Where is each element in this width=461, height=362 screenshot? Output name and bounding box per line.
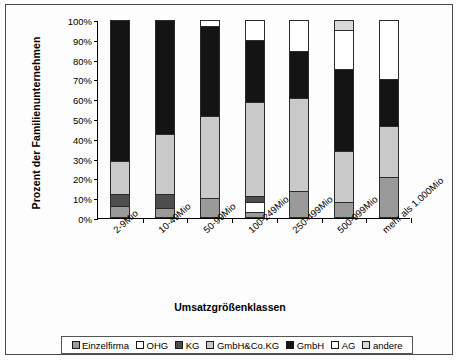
bar-segment xyxy=(201,117,219,199)
bar-segment xyxy=(290,52,308,99)
bar-segment xyxy=(246,41,264,104)
stacked-bar xyxy=(334,20,354,218)
bar-segment xyxy=(380,21,398,80)
stacked-bar xyxy=(200,20,220,218)
legend-label: GmbH xyxy=(297,340,324,351)
x-axis-tick-mark xyxy=(277,218,278,223)
bar-segment xyxy=(380,178,398,217)
y-axis-tick-mark xyxy=(94,80,98,81)
bar-segment xyxy=(246,21,264,41)
y-axis-tick-label: 30% xyxy=(52,154,98,165)
legend-item[interactable]: GmbH&Co.KG xyxy=(206,340,279,351)
legend-item[interactable]: AG xyxy=(331,340,355,351)
y-axis-tick-label: 60% xyxy=(52,95,98,106)
x-axis-tick-mark xyxy=(187,218,188,223)
chart-frame: Prozent der Familienunternehmen 0%10%20%… xyxy=(5,4,453,355)
legend-label: AG xyxy=(342,340,356,351)
legend-label: Einzelfirma xyxy=(82,340,129,351)
y-axis-tick-mark xyxy=(94,61,98,62)
y-axis-tick-label: 90% xyxy=(52,35,98,46)
x-axis-title: Umsatzgrößenklassen xyxy=(6,301,454,313)
legend-item[interactable]: KG xyxy=(175,340,199,351)
bar-segment xyxy=(335,21,353,31)
legend-swatch-icon xyxy=(72,341,80,349)
stacked-bar xyxy=(379,20,399,218)
y-axis-tick-label: 80% xyxy=(52,55,98,66)
chart-legend: EinzelfirmaOHGKGGmbH&Co.KGGmbHAGandere xyxy=(61,336,413,354)
y-axis-tick-mark xyxy=(94,41,98,42)
bar-segment xyxy=(246,203,264,213)
y-axis-tick-label: 50% xyxy=(52,115,98,126)
bar-segment xyxy=(290,21,308,52)
y-axis-tick-label: 40% xyxy=(52,134,98,145)
x-axis-tick-mark xyxy=(366,218,367,223)
legend-label: andere xyxy=(373,340,403,351)
bar-segment xyxy=(246,103,264,197)
y-axis-tick-label: 70% xyxy=(52,75,98,86)
legend-swatch-icon xyxy=(175,341,183,349)
x-axis-tick-mark xyxy=(411,218,412,223)
y-axis-tick-label: 100% xyxy=(52,16,98,27)
bar-segment xyxy=(380,127,398,178)
y-axis-tick-mark xyxy=(94,199,98,200)
legend-item[interactable]: GmbH xyxy=(286,340,324,351)
y-axis-tick-mark xyxy=(94,219,98,220)
legend-label: GmbH&Co.KG xyxy=(217,340,279,351)
stacked-bar xyxy=(245,20,265,218)
bar-segment xyxy=(156,195,174,209)
bar-segment xyxy=(335,31,353,70)
y-axis-tick-mark xyxy=(94,179,98,180)
bar-segment xyxy=(111,162,129,195)
legend-swatch-icon xyxy=(331,341,339,349)
bar-segment xyxy=(335,152,353,203)
bar-segment xyxy=(156,21,174,135)
y-axis-tick-mark xyxy=(94,140,98,141)
y-axis-tick-mark xyxy=(94,100,98,101)
legend-item[interactable]: Einzelfirma xyxy=(72,340,130,351)
x-axis-tick-mark xyxy=(322,218,323,223)
y-axis-tick-mark xyxy=(94,21,98,22)
x-axis-tick-mark xyxy=(143,218,144,223)
bar-segment xyxy=(335,70,353,152)
y-axis-tick-label: 0% xyxy=(52,214,98,225)
plot-area: 0%10%20%30%40%50%60%70%80%90%100% xyxy=(97,21,410,219)
legend-swatch-icon xyxy=(362,341,370,349)
legend-label: OHG xyxy=(147,340,169,351)
y-axis-tick-mark xyxy=(94,160,98,161)
bar-segment xyxy=(201,27,219,117)
y-axis-tick-label: 10% xyxy=(52,194,98,205)
legend-item[interactable]: andere xyxy=(362,340,402,351)
stacked-bar xyxy=(110,20,130,218)
bar-segment xyxy=(380,80,398,127)
x-axis-tick-mark xyxy=(232,218,233,223)
legend-item[interactable]: OHG xyxy=(136,340,168,351)
stacked-bar xyxy=(155,20,175,218)
bar-segment xyxy=(111,21,129,162)
legend-swatch-icon xyxy=(206,341,214,349)
bar-segment xyxy=(156,135,174,196)
legend-swatch-icon xyxy=(136,341,144,349)
y-axis-title: Prozent der Familienunternehmen xyxy=(30,23,42,223)
y-axis-tick-label: 20% xyxy=(52,174,98,185)
bar-segment xyxy=(290,99,308,191)
y-axis-tick-mark xyxy=(94,120,98,121)
bar-segment xyxy=(111,195,129,207)
legend-label: KG xyxy=(186,340,200,351)
legend-swatch-icon xyxy=(286,341,294,349)
stacked-bar xyxy=(289,20,309,218)
